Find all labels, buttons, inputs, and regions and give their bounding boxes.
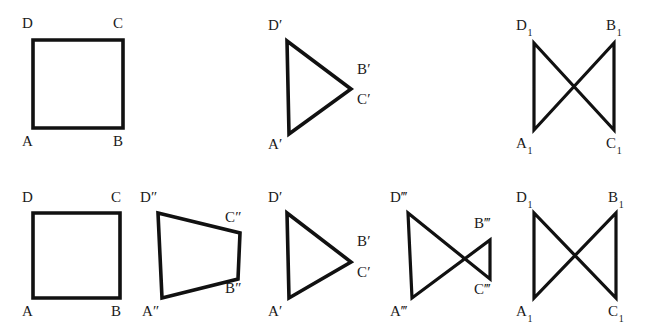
trapezoid-double-prime-label-a-double-prime: A″ — [142, 304, 159, 319]
triangle-prime-top-label-b-prime: B′ — [357, 62, 370, 77]
vertex-letter: A — [390, 303, 401, 319]
vertex-letter: C — [474, 281, 484, 297]
vertex-prime-marks: ‴ — [484, 281, 490, 297]
vertex-prime-marks: ′ — [279, 303, 282, 319]
square-abcd-bottom-label-b: B — [111, 304, 121, 319]
bowtie-sub1-top — [534, 43, 614, 130]
triangle-prime-top-label-d-prime: D′ — [268, 18, 282, 33]
vertex-letter: D — [268, 17, 279, 33]
vertex-letter: A — [22, 303, 33, 319]
vertex-letter: B — [225, 280, 235, 296]
trapezoid-double-prime-label-d-double-prime: D″ — [140, 190, 157, 205]
vertex-letter: B — [113, 133, 123, 149]
vertex-prime-marks: ′ — [367, 264, 370, 280]
square-abcd-bottom-label-c: C — [111, 190, 121, 205]
vertex-prime-marks: ‴ — [484, 215, 490, 231]
bowtie-sub1-bottom-label-c-sub1: C1 — [608, 304, 623, 322]
vertex-prime-marks: ′ — [367, 61, 370, 77]
trapezoid-double-prime-label-b-double-prime: B″ — [225, 281, 241, 296]
geometry-diagram-canvas: DCABD′B′C′A′D1B1A1C1DCABD″C″B″A″D′B′C′A′… — [0, 0, 656, 326]
vertex-subscript: 1 — [619, 313, 624, 324]
vertex-prime-marks: ′ — [367, 91, 370, 107]
square-abcd-top-label-c: C — [113, 16, 123, 31]
vertex-subscript: 1 — [528, 199, 533, 210]
vertex-subscript: 1 — [528, 313, 533, 324]
square-abcd-bottom — [33, 213, 120, 298]
vertex-letter: D — [22, 189, 33, 205]
vertex-letter: B — [357, 233, 367, 249]
bowtie-triple-prime-label-a-triple-prime: A‴ — [390, 304, 407, 319]
triangle-prime-bottom-label-c-prime: C′ — [357, 265, 370, 280]
vertex-prime-marks: ‴ — [401, 303, 407, 319]
square-abcd-top-label-d: D — [22, 16, 33, 31]
vertex-letter: B — [608, 189, 618, 205]
vertex-letter: D — [22, 15, 33, 31]
bowtie-sub1-bottom-label-d-sub1: D1 — [516, 190, 532, 208]
bowtie-sub1-top-label-c-sub1: C1 — [606, 136, 621, 154]
vertex-letter: A — [516, 135, 527, 151]
vertex-letter: C — [113, 15, 123, 31]
triangle-prime-top — [287, 41, 351, 134]
vertex-letter: A — [268, 136, 279, 152]
vertex-letter: C — [608, 303, 618, 319]
vertex-letter: C — [111, 189, 121, 205]
trapezoid-double-prime-label-c-double-prime: C″ — [225, 210, 241, 225]
vertex-prime-marks: ′ — [367, 233, 370, 249]
vertex-letter: A — [268, 303, 279, 319]
bowtie-sub1-top-label-a-sub1: A1 — [516, 136, 532, 154]
bowtie-sub1-bottom-label-a-sub1: A1 — [516, 304, 532, 322]
triangle-prime-bottom-label-a-prime: A′ — [268, 304, 282, 319]
vertex-letter: A — [142, 303, 153, 319]
triangle-prime-bottom-label-b-prime: B′ — [357, 234, 370, 249]
square-abcd-top — [33, 40, 123, 128]
bowtie-triple-prime-label-b-triple-prime: B‴ — [474, 216, 490, 231]
triangle-prime-bottom-label-d-prime: D′ — [268, 190, 282, 205]
triangle-prime-bottom — [287, 213, 351, 298]
vertex-letter: D — [516, 189, 527, 205]
triangle-prime-top-label-c-prime: C′ — [357, 92, 370, 107]
vertex-letter: B — [357, 61, 367, 77]
vertex-subscript: 1 — [617, 27, 622, 38]
square-abcd-top-label-a: A — [22, 134, 33, 149]
bowtie-triple-prime-label-c-triple-prime: C‴ — [474, 282, 490, 297]
vertex-letter: A — [516, 303, 527, 319]
vertex-subscript: 1 — [528, 27, 533, 38]
vertex-subscript: 1 — [617, 145, 622, 156]
square-abcd-top-label-b: B — [113, 134, 123, 149]
bowtie-sub1-top-label-d-sub1: D1 — [516, 18, 532, 36]
bowtie-sub1-bottom-label-b-sub1: B1 — [608, 190, 623, 208]
square-abcd-bottom-label-a: A — [22, 304, 33, 319]
vertex-prime-marks: ″ — [235, 280, 241, 296]
vertex-subscript: 1 — [619, 199, 624, 210]
triangle-prime-top-label-a-prime: A′ — [268, 137, 282, 152]
bowtie-sub1-top-label-b-sub1: B1 — [606, 18, 621, 36]
vertex-letter: D — [390, 189, 401, 205]
square-abcd-bottom-label-d: D — [22, 190, 33, 205]
vertex-prime-marks: ′ — [279, 17, 282, 33]
vertex-letter: C — [357, 264, 367, 280]
bowtie-triple-prime-label-d-triple-prime: D‴ — [390, 190, 407, 205]
vertex-letter: A — [22, 133, 33, 149]
vertex-letter: B — [111, 303, 121, 319]
vertex-letter: D — [140, 189, 151, 205]
vertex-letter: D — [268, 189, 279, 205]
vertex-letter: C — [225, 209, 235, 225]
figure-strokes-layer — [0, 0, 656, 326]
vertex-prime-marks: ‴ — [401, 189, 407, 205]
vertex-letter: B — [606, 17, 616, 33]
vertex-prime-marks: ″ — [235, 209, 241, 225]
vertex-prime-marks: ′ — [279, 189, 282, 205]
vertex-letter: C — [357, 91, 367, 107]
vertex-letter: B — [474, 215, 484, 231]
vertex-prime-marks: ″ — [153, 303, 159, 319]
vertex-prime-marks: ′ — [279, 136, 282, 152]
vertex-subscript: 1 — [528, 145, 533, 156]
bowtie-sub1-bottom — [534, 213, 616, 298]
vertex-letter: D — [516, 17, 527, 33]
vertex-prime-marks: ″ — [151, 189, 157, 205]
vertex-letter: C — [606, 135, 616, 151]
